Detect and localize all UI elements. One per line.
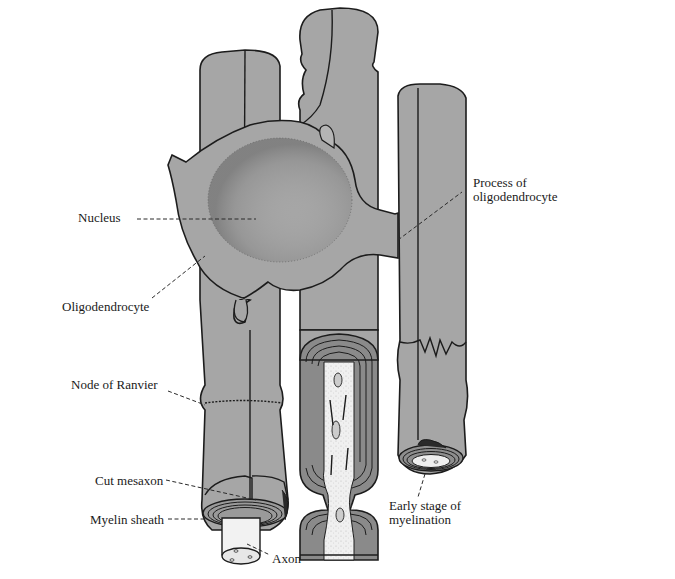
leader-early-stage [418,474,425,497]
label-process-line1: Process of [473,176,557,190]
label-oligodendrocyte: Oligodendrocyte [62,300,149,314]
label-node-of-ranvier: Node of Ranvier [71,378,158,392]
leader-node-of-ranvier [168,391,205,405]
oligodendrocyte-diagram [0,0,675,579]
label-cut-mesaxon: Cut mesaxon [95,474,163,488]
label-process-line2: oligodendrocyte [473,190,557,204]
right-fiber [398,84,468,474]
label-early-stage-line1: Early stage of [389,499,461,513]
label-early-stage-of-myelination: Early stage of myelination [389,499,461,527]
label-process-of-oligodendrocyte: Process of oligodendrocyte [473,176,557,204]
label-axon: Axon [272,552,301,566]
label-myelin-sheath: Myelin sheath [90,513,164,527]
longitudinal-section-fiber [300,330,378,560]
label-nucleus: Nucleus [78,211,121,225]
label-early-stage-line2: myelination [389,513,461,527]
